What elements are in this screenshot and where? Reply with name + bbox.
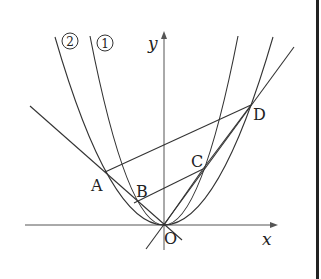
point-D-label: D (253, 105, 266, 124)
y-axis-label: y (147, 33, 158, 53)
point-B-label: B (136, 182, 148, 201)
y-axis-arrow-icon (161, 31, 167, 39)
x-axis-label: x (262, 229, 272, 249)
line-OC (164, 169, 203, 225)
point-A-label: A (90, 176, 103, 195)
segment-CD (203, 105, 251, 169)
origin-label: O (164, 229, 177, 248)
svg-text:2: 2 (66, 35, 74, 49)
right-border (316, 0, 319, 279)
svg-text:1: 1 (101, 37, 109, 51)
point-C-label: C (191, 152, 203, 171)
curve-label-1: 1 (97, 35, 113, 51)
diagram-canvas: 2 1 y x O A B C D (0, 0, 321, 279)
line-AO (30, 106, 182, 240)
curve-label-2: 2 (62, 33, 78, 49)
segment-AD (105, 105, 251, 172)
x-axis-arrow-icon (270, 222, 278, 228)
